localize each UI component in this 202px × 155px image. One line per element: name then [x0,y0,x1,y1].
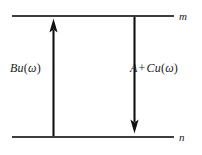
emission-close-paren: ) [174,61,178,75]
absorption-arrow [49,19,57,137]
diagram-canvas [0,0,202,155]
emission-rate-label: A+Cu(ω) [130,62,178,74]
emission-coefficient-a: A [130,61,138,75]
energy-level-diagram: m n Bu(ω) A+Cu(ω) [0,0,202,155]
emission-omega: ω [165,61,174,75]
energy-level-label-m: m [179,11,187,22]
absorption-close-paren: ) [37,61,41,75]
absorption-omega: ω [28,61,37,75]
absorption-rate-label: Bu(ω) [10,62,41,74]
emission-arrow [130,17,138,134]
absorption-coefficient-b: B [10,61,18,75]
energy-level-label-n: n [179,132,185,143]
emission-plus-sign: + [138,61,147,75]
emission-coefficient-c: C [147,61,155,75]
